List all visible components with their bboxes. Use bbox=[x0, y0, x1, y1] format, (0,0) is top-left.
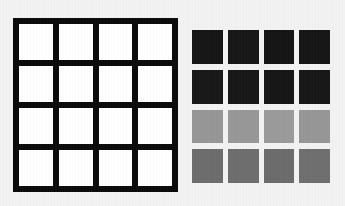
grayscale-patch bbox=[228, 110, 259, 144]
image-canvas bbox=[0, 0, 345, 206]
left-grid-cell bbox=[99, 66, 133, 102]
right-grid-panel bbox=[192, 30, 330, 183]
grayscale-patch bbox=[299, 149, 330, 183]
grayscale-patch bbox=[192, 30, 223, 64]
left-grid-cell bbox=[59, 108, 93, 144]
grayscale-patch bbox=[228, 149, 259, 183]
left-grid-cell bbox=[138, 108, 172, 144]
left-grid-cell bbox=[59, 24, 93, 60]
left-grid-panel bbox=[13, 18, 178, 192]
grayscale-patch bbox=[228, 30, 259, 64]
left-grid-cell bbox=[99, 150, 133, 186]
left-grid-cell bbox=[19, 66, 53, 102]
grayscale-patch bbox=[264, 149, 295, 183]
left-grid-cell bbox=[138, 24, 172, 60]
left-grid-cell bbox=[99, 24, 133, 60]
grayscale-patch bbox=[228, 70, 259, 104]
left-grid-cell bbox=[138, 150, 172, 186]
left-grid-cell bbox=[59, 66, 93, 102]
left-grid-cell bbox=[19, 108, 53, 144]
grayscale-patch bbox=[299, 110, 330, 144]
left-grid-cell bbox=[19, 24, 53, 60]
grayscale-patch bbox=[299, 70, 330, 104]
grayscale-patch bbox=[264, 70, 295, 104]
left-grid-cell bbox=[99, 108, 133, 144]
grayscale-patch bbox=[192, 149, 223, 183]
grayscale-patch bbox=[264, 110, 295, 144]
grayscale-patch bbox=[192, 70, 223, 104]
left-grid-cell bbox=[59, 150, 93, 186]
left-grid-cell bbox=[138, 66, 172, 102]
grayscale-patch bbox=[192, 110, 223, 144]
grayscale-patch bbox=[264, 30, 295, 64]
grayscale-patch bbox=[299, 30, 330, 64]
left-grid-cell bbox=[19, 150, 53, 186]
